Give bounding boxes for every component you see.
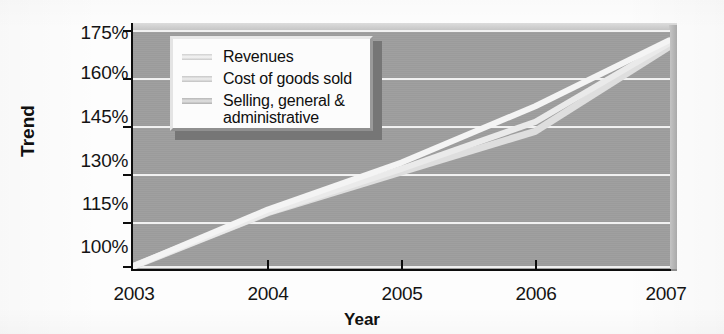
legend-item-revenues: Revenues — [182, 46, 293, 68]
x-tick-label: 2003 — [95, 283, 173, 305]
chart-legend: Revenues Cost of goods sold Selling, gen… — [170, 36, 382, 140]
y-axis-line — [131, 23, 133, 271]
y-tick-mark-130 — [123, 174, 132, 176]
legend-label-cost-of-goods-sold: Cost of goods sold — [223, 70, 352, 88]
legend-label-revenues: Revenues — [223, 48, 293, 66]
legend-label-administrative-continuation: administrative — [223, 109, 319, 127]
legend-swatch-cost-of-goods-sold — [182, 76, 212, 82]
y-tick-label: 115% — [42, 193, 128, 215]
x-tick-label: 2005 — [363, 283, 441, 305]
x-tick-label: 2006 — [497, 283, 575, 305]
y-tick-label: 175% — [42, 22, 128, 44]
legend-panel: Revenues Cost of goods sold Selling, gen… — [170, 36, 373, 131]
x-tick-mark-2006 — [535, 260, 537, 269]
x-tick-label: 2004 — [229, 283, 307, 305]
trend-line-chart: Trend 175% 160% 145% 130% 115% 100% — [0, 0, 724, 334]
x-tick-mark-2005 — [401, 260, 403, 269]
x-tick-label: 2007 — [627, 283, 705, 305]
y-tick-mark-145 — [123, 126, 132, 128]
y-tick-mark-175 — [123, 30, 132, 32]
plot-right-bevel — [669, 25, 677, 269]
y-tick-mark-115 — [123, 222, 132, 224]
y-tick-label: 160% — [42, 62, 128, 84]
x-tick-mark-2004 — [267, 260, 269, 269]
x-axis-line — [131, 269, 671, 271]
y-tick-label: 100% — [42, 236, 128, 258]
y-tick-mark-100 — [123, 266, 132, 268]
y-tick-label: 145% — [42, 106, 128, 128]
y-tick-mark-160 — [123, 78, 132, 80]
legend-swatch-revenues — [182, 54, 212, 60]
x-axis-title: Year — [0, 310, 724, 330]
legend-swatch-selling-general-administrative — [182, 98, 212, 104]
y-tick-label: 130% — [42, 150, 128, 172]
legend-item-cost-of-goods-sold: Cost of goods sold — [182, 68, 352, 90]
legend-label-selling-general-administrative: Selling, general & — [223, 92, 345, 110]
